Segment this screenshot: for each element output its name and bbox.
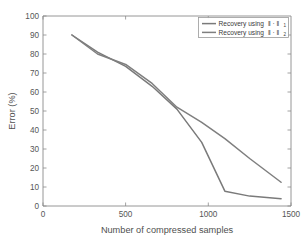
y-tick-label-40: 40 (30, 126, 40, 135)
x-axis-title: Number of compressed samples (101, 225, 234, 235)
legend-subscript-l1: 1 (284, 23, 287, 28)
legend[interactable]: Recovery using ‖ · ‖ 1 Recovery using ‖ … (199, 18, 289, 38)
y-tick-label-0: 0 (34, 202, 39, 211)
y-axis-title: Error (%) (7, 92, 17, 129)
data-series-group (72, 35, 281, 199)
y-tick-label-20: 20 (30, 164, 40, 173)
x-tick-label-500: 500 (119, 210, 133, 219)
x-tick-label-1500: 1500 (282, 210, 301, 219)
y-tick-marks (43, 16, 291, 206)
y-tick-label-70: 70 (30, 69, 40, 78)
x-tick-label-0: 0 (41, 210, 46, 219)
legend-norm-l1: ‖ · ‖ (268, 20, 280, 27)
y-tick-label-60: 60 (30, 88, 40, 97)
axes-box (43, 16, 291, 206)
chart-figure: 0 10 20 30 40 50 60 70 80 90 100 0 500 1… (0, 0, 308, 247)
y-tick-label-90: 90 (30, 31, 40, 40)
series-line-l1 (72, 35, 281, 199)
y-tick-labels: 0 10 20 30 40 50 60 70 80 90 100 (25, 12, 39, 211)
chart-svg: 0 10 20 30 40 50 60 70 80 90 100 0 500 1… (0, 0, 308, 247)
y-tick-label-10: 10 (30, 183, 40, 192)
x-tick-label-1000: 1000 (199, 210, 218, 219)
x-tick-labels: 0 500 1000 1500 (41, 210, 301, 219)
plot-frame (43, 16, 291, 206)
legend-label-l2: Recovery using (219, 29, 265, 37)
y-tick-label-30: 30 (30, 145, 40, 154)
x-tick-marks (43, 16, 291, 206)
legend-subscript-l2: 2 (284, 32, 287, 37)
legend-label-l1: Recovery using (219, 20, 265, 28)
legend-norm-l2: ‖ · ‖ (268, 29, 280, 36)
y-tick-label-80: 80 (30, 50, 40, 59)
y-tick-label-100: 100 (25, 12, 39, 21)
y-tick-label-50: 50 (30, 107, 40, 116)
